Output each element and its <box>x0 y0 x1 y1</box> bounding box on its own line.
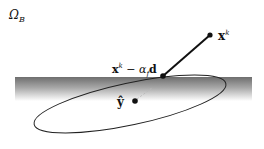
direction-d: d <box>149 63 157 76</box>
xk-superscript: k <box>225 29 229 37</box>
point-step <box>160 73 166 79</box>
omega-subscript: B <box>19 15 25 24</box>
constraint-band <box>15 77 252 101</box>
point-xk <box>207 32 212 37</box>
label-xk: xk <box>218 30 229 42</box>
region-label-omega-b: ΩB <box>9 9 25 21</box>
yhat-symbol: ŷ <box>117 95 124 109</box>
omega-symbol: Ω <box>9 8 19 22</box>
step-line <box>163 35 210 76</box>
step-minus-alpha: − α <box>123 63 147 76</box>
label-step-point: xk − αfd <box>112 64 157 75</box>
label-yhat: ŷ <box>117 96 124 108</box>
point-yhat <box>132 98 138 104</box>
